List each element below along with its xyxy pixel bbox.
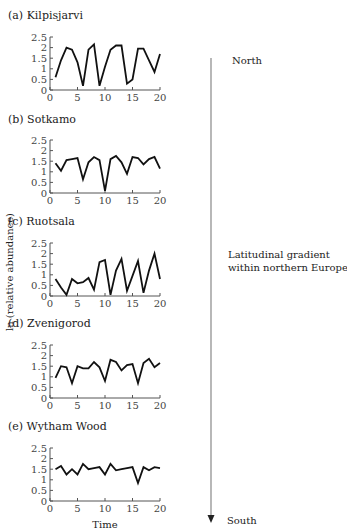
abundance-line — [56, 44, 161, 85]
x-tick-label: 20 — [154, 503, 167, 514]
y-tick-label: 1.5 — [31, 464, 47, 475]
x-axis-label: Time — [92, 519, 117, 530]
abundance-line — [56, 359, 161, 383]
abundance-figure: (a) Kilpisjarvi00.511.522.505101520(b) S… — [0, 0, 347, 531]
y-tick-label: 2.5 — [31, 340, 47, 351]
x-tick-label: 0 — [47, 503, 53, 514]
x-tick-label: 20 — [154, 92, 167, 103]
y-tick-label: 1 — [41, 63, 47, 74]
y-tick-label: 0.5 — [31, 382, 47, 393]
y-tick-label: 2.5 — [31, 32, 47, 43]
y-tick-label: 1 — [41, 474, 47, 485]
y-tick-label: 2 — [41, 42, 47, 53]
gradient-label-line1: Latitudinal gradient — [228, 249, 330, 260]
arrow-down-icon — [208, 515, 215, 523]
x-tick-label: 10 — [99, 298, 112, 309]
x-tick-label: 10 — [99, 195, 112, 206]
panels-group: (a) Kilpisjarvi00.511.522.505101520(b) S… — [8, 9, 166, 514]
latitude-gradient-arrow — [208, 58, 215, 523]
x-tick-label: 0 — [47, 92, 53, 103]
x-tick-label: 10 — [99, 400, 112, 411]
panel-title: (e) Wytham Wood — [8, 420, 107, 433]
panel-d: (d) Zvenigorod00.511.522.505101520 — [8, 317, 166, 411]
x-tick-label: 10 — [99, 503, 112, 514]
y-tick-label: 1.5 — [31, 259, 47, 270]
x-tick-label: 5 — [74, 503, 80, 514]
x-tick-label: 15 — [126, 503, 139, 514]
y-tick-label: 2.5 — [31, 135, 47, 146]
x-tick-label: 15 — [126, 92, 139, 103]
panel-c: (c) Ruotsala00.511.522.505101520 — [8, 215, 166, 309]
y-tick-label: 0.5 — [31, 280, 47, 291]
abundance-line — [56, 156, 161, 191]
y-tick-label: 2.5 — [31, 238, 47, 249]
south-label: South — [227, 515, 257, 526]
abundance-line — [56, 254, 161, 295]
panel-title: (c) Ruotsala — [8, 215, 75, 228]
x-tick-label: 5 — [74, 195, 80, 206]
y-tick-label: 0.5 — [31, 485, 47, 496]
y-tick-label: 2 — [41, 350, 47, 361]
y-tick-label: 1.5 — [31, 53, 47, 64]
y-tick-label: 2 — [41, 248, 47, 259]
y-tick-label: 0.5 — [31, 74, 47, 85]
y-axis-label: ln (relative abundance) — [4, 213, 15, 331]
x-tick-label: 0 — [47, 400, 53, 411]
panel-title: (a) Kilpisjarvi — [8, 9, 84, 22]
x-tick-label: 0 — [47, 195, 53, 206]
x-tick-label: 5 — [74, 298, 80, 309]
x-tick-label: 15 — [126, 195, 139, 206]
panel-title: (d) Zvenigorod — [8, 317, 91, 330]
y-tick-label: 1.5 — [31, 156, 47, 167]
y-tick-label: 2.5 — [31, 443, 47, 454]
panel-a: (a) Kilpisjarvi00.511.522.505101520 — [8, 9, 166, 103]
y-tick-label: 2 — [41, 145, 47, 156]
panel-b: (b) Sotkamo00.511.522.505101520 — [8, 113, 166, 206]
y-tick-label: 2 — [41, 453, 47, 464]
y-tick-label: 1 — [41, 269, 47, 280]
north-label: North — [232, 55, 263, 66]
gradient-label-line2: within northern Europe — [228, 262, 347, 273]
abundance-line — [56, 464, 161, 483]
panel-e: (e) Wytham Wood00.511.522.505101520 — [8, 420, 166, 514]
panel-title: (b) Sotkamo — [8, 113, 76, 126]
x-tick-label: 20 — [154, 195, 167, 206]
x-tick-label: 0 — [47, 298, 53, 309]
x-tick-label: 10 — [99, 92, 112, 103]
y-tick-label: 1.5 — [31, 361, 47, 372]
y-tick-label: 1 — [41, 371, 47, 382]
x-tick-label: 20 — [154, 298, 167, 309]
x-tick-label: 15 — [126, 298, 139, 309]
x-tick-label: 20 — [154, 400, 167, 411]
x-tick-label: 5 — [74, 92, 80, 103]
y-tick-label: 1 — [41, 166, 47, 177]
x-tick-label: 5 — [74, 400, 80, 411]
x-tick-label: 15 — [126, 400, 139, 411]
y-tick-label: 0.5 — [31, 177, 47, 188]
